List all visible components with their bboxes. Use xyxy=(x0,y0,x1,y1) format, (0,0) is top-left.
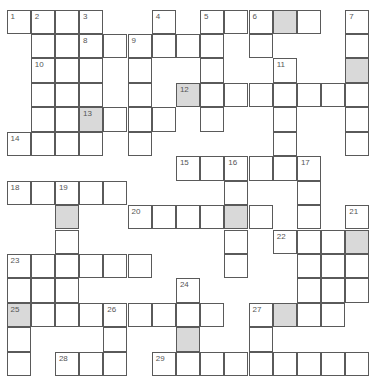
crossword-cell[interactable] xyxy=(31,303,55,327)
shaded-cell[interactable] xyxy=(345,230,369,254)
crossword-cell[interactable]: 23 xyxy=(7,254,31,278)
crossword-cell[interactable] xyxy=(55,132,79,156)
shaded-cell[interactable] xyxy=(55,205,79,229)
crossword-cell[interactable]: 16 xyxy=(224,156,248,180)
shaded-cell[interactable]: 25 xyxy=(7,303,31,327)
crossword-cell[interactable] xyxy=(273,156,297,180)
crossword-cell[interactable] xyxy=(128,107,152,131)
crossword-cell[interactable] xyxy=(321,254,345,278)
crossword-cell[interactable] xyxy=(152,303,176,327)
crossword-cell[interactable] xyxy=(55,10,79,34)
shaded-cell[interactable] xyxy=(176,327,200,351)
crossword-cell[interactable] xyxy=(224,230,248,254)
crossword-cell[interactable] xyxy=(55,303,79,327)
crossword-cell[interactable] xyxy=(297,83,321,107)
crossword-cell[interactable] xyxy=(55,58,79,82)
crossword-cell[interactable] xyxy=(200,303,224,327)
crossword-cell[interactable] xyxy=(103,327,127,351)
crossword-cell[interactable] xyxy=(345,83,369,107)
crossword-cell[interactable] xyxy=(128,303,152,327)
crossword-cell[interactable] xyxy=(55,254,79,278)
crossword-cell[interactable]: 14 xyxy=(7,132,31,156)
crossword-cell[interactable]: 7 xyxy=(345,10,369,34)
crossword-cell[interactable] xyxy=(224,181,248,205)
crossword-cell[interactable]: 18 xyxy=(7,181,31,205)
crossword-cell[interactable]: 22 xyxy=(273,230,297,254)
crossword-cell[interactable] xyxy=(273,107,297,131)
crossword-cell[interactable] xyxy=(152,205,176,229)
crossword-cell[interactable] xyxy=(249,156,273,180)
crossword-cell[interactable] xyxy=(55,278,79,302)
shaded-cell[interactable] xyxy=(224,205,248,229)
crossword-cell[interactable] xyxy=(31,254,55,278)
crossword-cell[interactable] xyxy=(345,352,369,376)
crossword-cell[interactable]: 28 xyxy=(55,352,79,376)
crossword-cell[interactable] xyxy=(176,303,200,327)
crossword-cell[interactable] xyxy=(345,278,369,302)
crossword-cell[interactable] xyxy=(128,83,152,107)
crossword-cell[interactable] xyxy=(152,107,176,131)
crossword-cell[interactable]: 11 xyxy=(273,58,297,82)
crossword-cell[interactable] xyxy=(345,254,369,278)
crossword-cell[interactable] xyxy=(55,230,79,254)
crossword-cell[interactable]: 24 xyxy=(176,278,200,302)
crossword-cell[interactable] xyxy=(31,181,55,205)
crossword-cell[interactable] xyxy=(224,352,248,376)
crossword-cell[interactable]: 27 xyxy=(249,303,273,327)
crossword-cell[interactable] xyxy=(55,83,79,107)
crossword-cell[interactable]: 19 xyxy=(55,181,79,205)
shaded-cell[interactable]: 13 xyxy=(79,107,103,131)
crossword-cell[interactable] xyxy=(321,303,345,327)
crossword-cell[interactable] xyxy=(200,58,224,82)
crossword-cell[interactable]: 3 xyxy=(79,10,103,34)
crossword-cell[interactable] xyxy=(176,34,200,58)
crossword-cell[interactable] xyxy=(345,34,369,58)
crossword-cell[interactable] xyxy=(31,132,55,156)
crossword-cell[interactable] xyxy=(297,254,321,278)
crossword-cell[interactable] xyxy=(128,132,152,156)
crossword-cell[interactable] xyxy=(7,278,31,302)
crossword-cell[interactable] xyxy=(79,132,103,156)
crossword-cell[interactable] xyxy=(321,352,345,376)
crossword-cell[interactable] xyxy=(297,205,321,229)
crossword-cell[interactable] xyxy=(79,352,103,376)
crossword-cell[interactable]: 26 xyxy=(103,303,127,327)
crossword-cell[interactable] xyxy=(297,352,321,376)
crossword-cell[interactable] xyxy=(273,132,297,156)
crossword-cell[interactable] xyxy=(31,34,55,58)
crossword-cell[interactable] xyxy=(79,254,103,278)
crossword-cell[interactable] xyxy=(103,352,127,376)
crossword-cell[interactable] xyxy=(79,181,103,205)
crossword-cell[interactable] xyxy=(249,352,273,376)
crossword-cell[interactable]: 9 xyxy=(128,34,152,58)
shaded-cell[interactable] xyxy=(345,58,369,82)
crossword-cell[interactable] xyxy=(321,230,345,254)
crossword-cell[interactable] xyxy=(200,352,224,376)
crossword-cell[interactable]: 1 xyxy=(7,10,31,34)
crossword-cell[interactable] xyxy=(224,254,248,278)
crossword-cell[interactable] xyxy=(321,278,345,302)
crossword-cell[interactable] xyxy=(297,181,321,205)
crossword-cell[interactable] xyxy=(31,278,55,302)
shaded-cell[interactable]: 12 xyxy=(176,83,200,107)
crossword-cell[interactable] xyxy=(200,156,224,180)
crossword-cell[interactable] xyxy=(55,34,79,58)
crossword-cell[interactable] xyxy=(249,83,273,107)
crossword-cell[interactable] xyxy=(103,254,127,278)
crossword-cell[interactable] xyxy=(345,107,369,131)
crossword-cell[interactable] xyxy=(128,254,152,278)
crossword-cell[interactable] xyxy=(103,107,127,131)
crossword-cell[interactable] xyxy=(128,58,152,82)
crossword-cell[interactable] xyxy=(224,83,248,107)
crossword-cell[interactable] xyxy=(7,352,31,376)
crossword-cell[interactable]: 2 xyxy=(31,10,55,34)
crossword-cell[interactable] xyxy=(273,352,297,376)
shaded-cell[interactable] xyxy=(273,10,297,34)
crossword-cell[interactable] xyxy=(79,303,103,327)
crossword-cell[interactable]: 21 xyxy=(345,205,369,229)
crossword-cell[interactable] xyxy=(176,352,200,376)
crossword-cell[interactable] xyxy=(79,83,103,107)
crossword-cell[interactable]: 29 xyxy=(152,352,176,376)
crossword-cell[interactable] xyxy=(176,205,200,229)
crossword-cell[interactable] xyxy=(224,10,248,34)
